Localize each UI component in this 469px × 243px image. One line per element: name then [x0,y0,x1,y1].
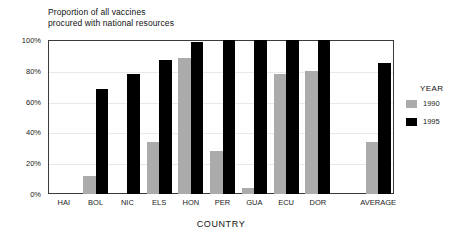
legend-title: YEAR [420,84,466,93]
vaccine-procurement-bar-chart: Proportion of all vaccines procured with… [0,0,469,243]
bar-average-1990 [366,142,379,194]
bar-group [274,40,299,194]
bar-dor-1995 [318,40,331,194]
bar-bol-1990 [83,176,96,194]
bar-hon-1990 [178,58,191,194]
bar-bol-1995 [96,89,109,194]
bar-average-1995 [378,63,391,194]
x-axis: HAIBOLNICELSHONPERGUAECUDORAVERAGE [48,196,394,212]
y-tick-label: 100% [22,36,41,45]
bar-group [115,40,140,194]
legend-item-1990[interactable]: 1990 [406,99,466,108]
x-tick-label-gua: GUA [246,198,262,207]
y-axis: 0%20%40%60%80%100% [0,40,45,194]
chart-title: Proportion of all vaccines procured with… [48,7,174,28]
legend-items: 19901995 [406,99,466,126]
bar-group [178,40,203,194]
legend-swatch-icon-1995 [406,118,417,126]
bar-group [83,40,108,194]
x-tick-label-nic: NIC [121,198,134,207]
bar-group [51,40,76,194]
bar-ecu-1995 [286,40,299,194]
bars-layer [48,40,394,194]
legend-label: 1990 [423,99,440,108]
x-tick-label-per: PER [215,198,230,207]
legend: YEAR 19901995 [406,84,466,135]
x-tick-label-dor: DOR [309,198,326,207]
x-tick-label-els: ELS [152,198,166,207]
x-tick-label-hon: HON [183,198,200,207]
legend-item-1995[interactable]: 1995 [406,117,466,126]
legend-swatch-icon-1990 [406,100,417,108]
x-tick-label-hai: HAI [58,198,71,207]
bar-group [242,40,267,194]
bar-els-1995 [159,60,172,194]
y-tick-label: 40% [26,128,41,137]
bar-group [305,40,330,194]
bar-els-1990 [147,142,160,194]
x-tick-label-bol: BOL [88,198,103,207]
bar-group [366,40,391,194]
bar-group [210,40,235,194]
y-tick-label: 60% [26,97,41,106]
x-axis-title: COUNTRY [48,219,394,229]
y-tick-label: 80% [26,66,41,75]
bar-ecu-1990 [274,74,287,194]
legend-label: 1995 [423,117,440,126]
y-tick-label: 0% [30,190,41,199]
y-tick-label: 20% [26,159,41,168]
x-tick-label-ecu: ECU [278,198,294,207]
bar-gua-1990 [242,188,255,194]
bar-hon-1995 [191,42,204,194]
x-tick-label-average: AVERAGE [360,198,396,207]
bar-gua-1995 [254,40,267,194]
bar-per-1995 [223,40,236,194]
bar-dor-1990 [305,71,318,194]
bar-nic-1995 [127,74,140,194]
bar-per-1990 [210,151,223,194]
bar-group [147,40,172,194]
